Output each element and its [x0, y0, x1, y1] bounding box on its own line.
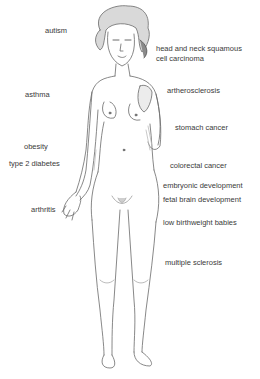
label-head-neck-line1: head and neck squamous — [156, 44, 242, 53]
label-autism: autism — [45, 26, 67, 35]
label-multiple-sclerosis: multiple sclerosis — [165, 258, 222, 267]
label-low-birthweight: low birthweight babies — [163, 218, 237, 227]
label-stomach-cancer: stomach cancer — [175, 123, 228, 132]
label-artherosclerosis: artherosclerosis — [167, 86, 220, 95]
label-fetal-brain-development: fetal brain development — [163, 195, 241, 204]
label-obesity: obesity — [24, 142, 48, 151]
label-asthma: asthma — [25, 90, 50, 99]
label-head-neck-line2: cell carcinoma — [156, 54, 204, 63]
label-type2-diabetes: type 2 diabetes — [9, 159, 60, 168]
label-arthritis: arthritis — [31, 205, 56, 214]
label-embryonic-development: embryonic development — [163, 181, 243, 190]
label-colorectal-cancer: colorectal cancer — [170, 161, 227, 170]
